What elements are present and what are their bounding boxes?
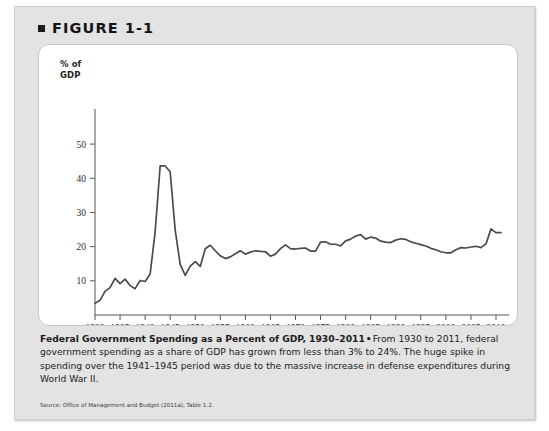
x-tick-label: 1955 xyxy=(211,323,230,326)
figure-caption: Federal Government Spending as a Percent… xyxy=(40,332,516,386)
y-tick-label: 20 xyxy=(77,242,87,252)
chart-card: % of GDP 1020304050 19301935194019451950… xyxy=(38,44,518,326)
x-tick-label: 1985 xyxy=(361,323,380,326)
figure-header: FIGURE 1-1 xyxy=(38,20,154,36)
x-tick-label: 1950 xyxy=(186,323,205,326)
y-tick-label: 50 xyxy=(77,140,87,150)
x-axis-ticks: 1930193519401945195019551960196519701975… xyxy=(86,315,506,326)
figure-label: FIGURE 1-1 xyxy=(52,20,154,36)
y-tick-label: 10 xyxy=(77,276,87,286)
square-bullet-icon xyxy=(38,25,45,32)
y-tick-label: 30 xyxy=(77,208,87,218)
x-tick-label: 2005 xyxy=(461,323,480,326)
x-tick-label: 2000 xyxy=(436,323,455,326)
x-tick-label: 1945 xyxy=(161,323,180,326)
x-tick-label: 2010 xyxy=(486,323,505,326)
spending-line-series xyxy=(95,166,501,303)
caption-title: Federal Government Spending as a Percent… xyxy=(40,333,365,344)
x-tick-label: 1990 xyxy=(386,323,405,326)
x-tick-label: 1960 xyxy=(236,323,255,326)
figure-panel: FIGURE 1-1 % of GDP 1020304050 193019351… xyxy=(14,6,535,420)
source-note: Source: Office of Management and Budget … xyxy=(40,401,516,409)
x-tick-label: 1935 xyxy=(111,323,130,326)
x-tick-label: 1995 xyxy=(411,323,430,326)
y-tick-label: 40 xyxy=(77,174,87,184)
y-axis-group: 1020304050 xyxy=(77,109,96,315)
x-tick-label: 1975 xyxy=(311,323,330,326)
x-tick-label: 1940 xyxy=(136,323,155,326)
x-tick-label: 1970 xyxy=(286,323,305,326)
x-axis-group: 1930193519401945195019551960196519701975… xyxy=(86,315,510,326)
chart-plot: 1020304050 19301935194019451950195519601… xyxy=(39,45,518,326)
caption-separator: • xyxy=(365,333,373,344)
x-tick-label: 1930 xyxy=(86,323,105,326)
x-tick-label: 1965 xyxy=(261,323,280,326)
x-tick-label: 1980 xyxy=(336,323,355,326)
y-axis-ticks: 1020304050 xyxy=(77,140,96,287)
